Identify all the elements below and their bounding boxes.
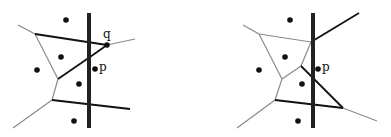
- label-p: p: [99, 60, 107, 74]
- sweep-line-bar: [311, 13, 315, 128]
- site-p: [315, 66, 321, 72]
- site-point: [299, 81, 305, 87]
- gray-voronoi-edge: [259, 34, 311, 42]
- site-point: [71, 118, 77, 124]
- gray-voronoi-edge: [52, 79, 58, 100]
- gray-voronoi-edge: [107, 39, 135, 45]
- gray-voronoi-edge: [13, 100, 52, 128]
- gray-voronoi-edge: [301, 42, 311, 66]
- right-panel: p: [237, 13, 377, 128]
- sweep-line-bar: [87, 13, 91, 128]
- gray-voronoi-edge: [282, 66, 301, 79]
- label-p: p: [322, 60, 330, 74]
- black-voronoi-edge: [311, 13, 359, 42]
- site-point: [63, 17, 69, 23]
- gray-voronoi-edge: [237, 100, 275, 128]
- site-point: [256, 67, 262, 73]
- site-point: [287, 17, 293, 23]
- gray-voronoi-edge: [18, 25, 35, 34]
- diagram-svg: pq p: [0, 0, 391, 137]
- site-point: [282, 54, 288, 60]
- gray-voronoi-edge: [259, 34, 282, 79]
- gray-voronoi-edge: [243, 25, 259, 34]
- black-voronoi-edge: [35, 34, 107, 45]
- site-point: [76, 81, 82, 87]
- black-voronoi-edge: [58, 57, 90, 79]
- gray-voronoi-edge: [343, 108, 377, 121]
- vertex-q: [104, 42, 110, 48]
- left-panel: pq: [13, 13, 135, 128]
- black-voronoi-edge: [90, 45, 107, 57]
- gray-voronoi-edge: [275, 79, 282, 100]
- voronoi-diagram-figure: pq p: [0, 0, 391, 137]
- black-voronoi-edge: [275, 100, 343, 108]
- label-q: q: [103, 27, 111, 41]
- site-point: [58, 54, 64, 60]
- site-point: [295, 118, 301, 124]
- site-point: [34, 67, 40, 73]
- site-p: [92, 66, 98, 72]
